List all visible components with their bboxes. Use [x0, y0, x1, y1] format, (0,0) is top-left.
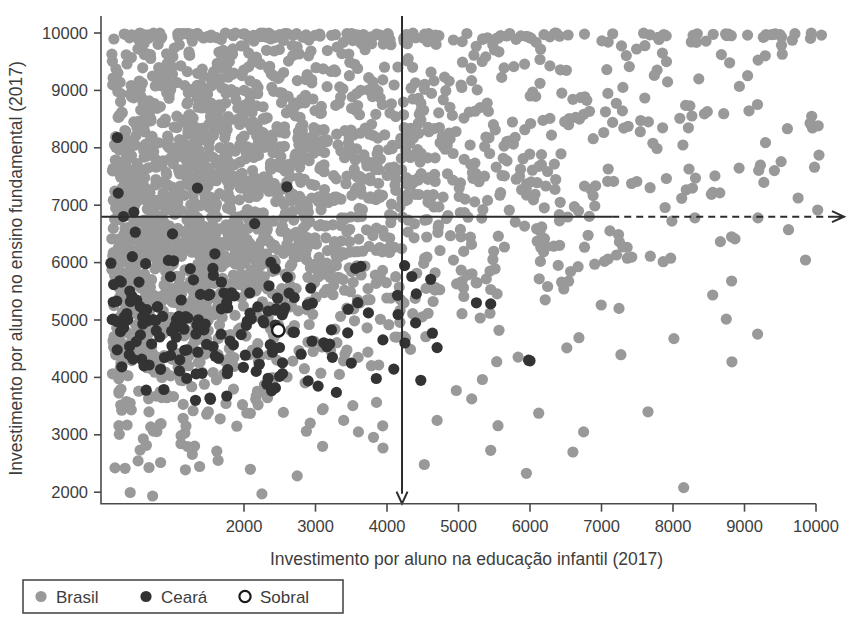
data-point — [231, 421, 242, 432]
data-point — [536, 149, 547, 160]
legend-label-sobral: Sobral — [260, 588, 309, 607]
data-point — [251, 100, 262, 111]
data-point — [336, 48, 347, 59]
data-point — [421, 252, 432, 263]
data-point — [534, 54, 545, 65]
data-point — [381, 292, 392, 303]
x-tick-label: 2000 — [226, 517, 263, 535]
data-point — [590, 180, 601, 191]
data-point — [787, 35, 798, 46]
data-point — [783, 224, 794, 235]
data-point — [326, 324, 337, 335]
data-point — [622, 253, 633, 264]
data-point — [471, 297, 482, 308]
data-point — [296, 349, 307, 360]
data-point — [230, 94, 241, 105]
data-point — [214, 99, 225, 110]
data-point — [573, 332, 584, 343]
data-point — [295, 112, 306, 123]
data-point — [534, 78, 545, 89]
data-point — [556, 88, 567, 99]
data-point — [205, 151, 216, 162]
data-point — [125, 487, 136, 498]
data-point — [279, 28, 290, 39]
data-point — [538, 246, 549, 257]
data-point — [714, 187, 725, 198]
data-point — [372, 133, 383, 144]
data-point — [206, 81, 217, 92]
data-point — [377, 442, 388, 453]
data-point — [309, 259, 320, 270]
data-point — [156, 418, 167, 429]
data-point — [184, 49, 195, 60]
data-point — [155, 364, 166, 375]
data-point — [472, 84, 483, 95]
data-point — [155, 457, 166, 468]
data-point — [368, 432, 379, 443]
data-point — [475, 312, 486, 323]
data-point — [200, 234, 211, 245]
data-point — [561, 342, 572, 353]
data-point — [477, 374, 488, 385]
data-point — [191, 303, 202, 314]
data-point — [199, 379, 210, 390]
data-point — [469, 196, 480, 207]
data-point — [128, 116, 139, 127]
data-point — [190, 328, 201, 339]
data-point — [213, 455, 224, 466]
data-point — [793, 192, 804, 203]
scatter-plot-figure: 2000300040005000600070008000900010000200… — [0, 0, 868, 641]
data-point — [287, 40, 298, 51]
data-point — [167, 228, 178, 239]
data-point — [258, 317, 269, 328]
data-point — [239, 41, 250, 52]
data-point — [151, 325, 162, 336]
data-point — [433, 201, 444, 212]
data-point — [403, 53, 414, 64]
data-point — [244, 75, 255, 86]
data-point — [551, 28, 562, 39]
data-point — [425, 67, 436, 78]
data-point — [589, 259, 600, 270]
data-point — [131, 336, 142, 347]
data-point — [607, 117, 618, 128]
data-point — [114, 429, 125, 440]
data-point — [410, 317, 421, 328]
data-point — [329, 64, 340, 75]
horizontal-reference-arrow-icon — [828, 211, 844, 222]
data-point — [115, 96, 126, 107]
data-point — [223, 289, 234, 300]
y-tick-label: 5000 — [51, 311, 88, 329]
data-point — [283, 56, 294, 67]
data-point — [330, 29, 341, 40]
data-point — [261, 183, 272, 194]
data-point — [444, 102, 455, 113]
data-point — [631, 43, 642, 54]
data-point — [479, 141, 490, 152]
data-point — [319, 287, 330, 298]
data-point — [579, 28, 590, 39]
data-point — [456, 308, 467, 319]
data-point — [221, 255, 232, 266]
data-point — [268, 70, 279, 81]
data-point — [519, 221, 530, 232]
x-tick-label: 9000 — [726, 517, 763, 535]
data-point — [425, 274, 436, 285]
data-point — [460, 194, 471, 205]
data-point — [259, 230, 270, 241]
data-point — [188, 405, 199, 416]
x-tick-label: 6000 — [512, 517, 549, 535]
data-point — [365, 191, 376, 202]
data-point — [645, 182, 656, 193]
data-point — [341, 171, 352, 182]
data-point — [327, 219, 338, 230]
data-point — [320, 232, 331, 243]
data-point — [292, 470, 303, 481]
data-point — [344, 132, 355, 143]
data-point — [686, 110, 697, 121]
data-point — [575, 92, 586, 103]
data-point — [182, 174, 193, 185]
data-point — [334, 369, 345, 380]
data-point — [488, 246, 499, 257]
data-point — [399, 337, 410, 348]
